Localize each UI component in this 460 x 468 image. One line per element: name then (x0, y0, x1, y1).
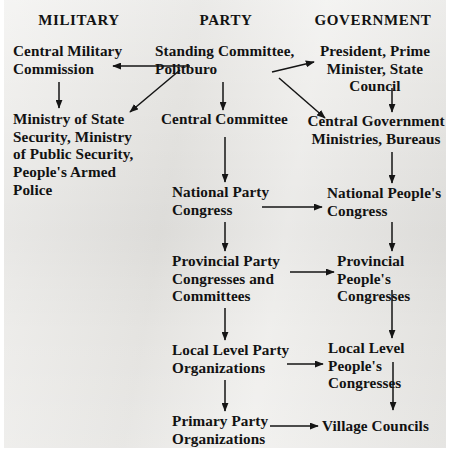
node-ministry-state-security: Ministry of State Security, Ministry of … (13, 110, 153, 198)
node-standing-committee-politburo: Standing Committee, Politburo (155, 42, 305, 77)
node-president-premier-state-council: President, Prime Minister, State Council (311, 42, 439, 95)
node-local-level-peoples-congresses: Local Level People's Congresses (328, 339, 428, 392)
node-national-peoples-congress: National People's Congress (327, 184, 447, 219)
column-header-military: MILITARY (13, 12, 145, 29)
node-central-government-ministries: Central Government Ministries, Bureaus (307, 112, 445, 147)
node-national-party-congress: National Party Congress (172, 183, 302, 218)
node-local-level-party-organizations: Local Level Party Organizations (172, 341, 312, 376)
node-provincial-peoples-congresses: Provincial People's Congresses (337, 252, 449, 305)
column-header-party: PARTY (170, 12, 282, 29)
node-village-councils: Village Councils (322, 417, 452, 435)
column-header-government: GOVERNMENT (305, 12, 441, 29)
node-central-committee: Central Committee (161, 110, 307, 128)
node-primary-party-organizations: Primary Party Organizations (172, 412, 302, 447)
node-provincial-party-congresses: Provincial Party Congresses and Committe… (172, 252, 302, 305)
node-central-military-commission: Central Military Commission (13, 42, 145, 77)
diagram-page: MILITARY PARTY GOVERNMENT (0, 0, 460, 468)
